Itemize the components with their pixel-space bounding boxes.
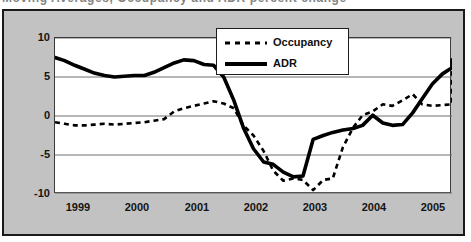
x-tick-2004: 2004 <box>351 201 397 213</box>
x-tick-2002: 2002 <box>233 201 279 213</box>
y-tick-neg5: -5 <box>6 149 50 160</box>
x-tick-2003: 2003 <box>292 201 338 213</box>
legend-label-adr: ADR <box>273 56 297 70</box>
y-tick-0: 0 <box>6 110 50 121</box>
x-axis-tick-labels: 1999 2000 2001 2002 2003 2004 2005 <box>54 201 451 221</box>
caption-text: Moving Averages, Occupancy and ADR perce… <box>2 0 347 5</box>
legend-entry-occupancy: Occupancy <box>217 32 350 52</box>
y-tick-5: 5 <box>6 71 50 82</box>
y-axis-tick-labels: 10 5 0 -5 -10 <box>4 37 50 193</box>
solid-line-swatch <box>225 62 267 66</box>
x-tick-2001: 2001 <box>174 201 220 213</box>
x-tick-2000: 2000 <box>114 201 160 213</box>
series-line-adr <box>55 58 452 177</box>
dashed-line-swatch <box>225 41 267 45</box>
chart-frame: 10 5 0 -5 -10 1999 <box>2 9 465 236</box>
y-tick-10: 10 <box>6 32 50 43</box>
x-tick-2005: 2005 <box>410 201 456 213</box>
series-line-occupancy <box>55 72 452 190</box>
legend-entry-adr: ADR <box>217 53 350 73</box>
caption-strip: Moving Averages, Occupancy and ADR perce… <box>0 0 471 9</box>
legend-label-occupancy: Occupancy <box>273 35 332 49</box>
y-tick-neg10: -10 <box>6 188 50 199</box>
chart-figure: Moving Averages, Occupancy and ADR perce… <box>0 0 471 242</box>
chart-legend: Occupancy ADR <box>216 28 349 75</box>
x-tick-1999: 1999 <box>55 201 101 213</box>
